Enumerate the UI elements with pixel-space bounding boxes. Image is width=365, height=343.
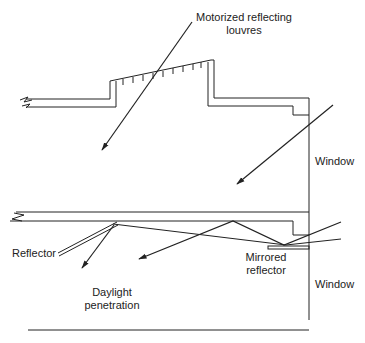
upper-roof-left-stub xyxy=(20,81,116,108)
upper-window-ray xyxy=(237,105,333,184)
louvres-label: Motorized reflecting louvres xyxy=(192,11,296,37)
break-symbol-icon xyxy=(12,213,24,221)
daylight-penetration-label: Daylight penetration xyxy=(78,286,146,312)
reflector-label: Reflector xyxy=(12,247,56,260)
louvre-rooflight xyxy=(110,60,211,85)
daylighting-section-diagram xyxy=(0,0,365,343)
reflector xyxy=(58,222,118,256)
upper-roof-right xyxy=(208,60,309,320)
window-upper-label: Window xyxy=(315,155,354,168)
window-lower-label: Window xyxy=(315,278,354,291)
mirrored-reflector xyxy=(268,246,309,249)
ceiling-shelf xyxy=(10,212,309,235)
mirrored-reflector-label: Mirrored reflector xyxy=(238,251,294,277)
